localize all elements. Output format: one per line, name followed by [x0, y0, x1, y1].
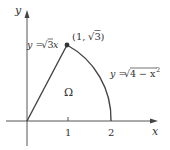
svg-text:2: 2: [156, 66, 160, 74]
point-marker: [65, 43, 70, 48]
svg-text:x: x: [53, 39, 59, 50]
point-label: (1, √ 3 ): [72, 31, 105, 43]
tick-label-1: 1: [65, 127, 71, 138]
tick-label-2: 2: [108, 127, 114, 138]
y-axis-label: y: [14, 4, 22, 17]
svg-text:): ): [101, 31, 105, 42]
svg-text:4 − x: 4 − x: [130, 68, 156, 79]
arc-equation-label: y = √ 4 − x 2: [109, 66, 160, 79]
y-axis-arrow-icon: [25, 10, 30, 18]
arc-curve: [67, 45, 111, 121]
x-axis-label: x: [152, 125, 159, 138]
region-diagram: y x 1 2 y = √ 3 x (1, √ 3 ) y = √ 4 − x …: [0, 0, 170, 150]
x-axis-arrow-icon: [150, 119, 158, 124]
svg-text:(1,: (1,: [72, 31, 85, 42]
line-curve: [27, 45, 67, 121]
line-equation-label: y = √ 3 x: [26, 39, 59, 50]
region-label: Ω: [64, 86, 73, 99]
